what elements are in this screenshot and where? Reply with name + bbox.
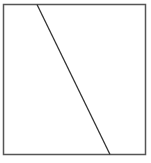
diagonal-line <box>37 5 110 155</box>
diagram-canvas <box>0 0 151 163</box>
square-outline <box>4 5 146 155</box>
